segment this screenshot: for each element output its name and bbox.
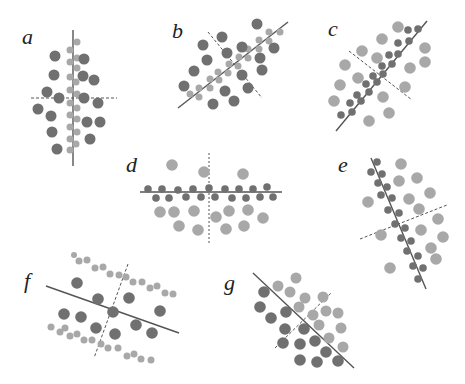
panel-e (360, 158, 449, 289)
panel-g (253, 273, 354, 369)
panel-d (140, 153, 282, 244)
diagram-canvas (0, 0, 465, 384)
panel-a (31, 30, 117, 166)
panel-b (178, 19, 288, 110)
panel-f (46, 252, 179, 364)
panel-c (328, 21, 431, 131)
